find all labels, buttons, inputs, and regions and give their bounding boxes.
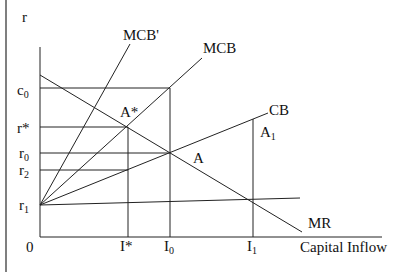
istar-label: I*: [120, 238, 133, 254]
mcb-curve: [40, 58, 202, 205]
c0-label: c0: [17, 82, 29, 100]
mcb-prime-curve: [40, 44, 130, 205]
r1-label: r1: [19, 197, 29, 215]
r2-label: r2: [19, 162, 29, 180]
r0-label: r0: [19, 145, 29, 163]
a-label: A: [193, 150, 204, 166]
i0-label: I0: [164, 238, 174, 256]
i1-label: I1: [247, 238, 257, 256]
mr-label: MR: [308, 215, 331, 231]
a1-label: A1: [260, 124, 276, 142]
capital-inflow-diagram: r Capital Inflow 0 c0 r* r0 r2 r1 I* I0 …: [0, 0, 403, 272]
a-star-label: A*: [120, 104, 138, 120]
mcb-label: MCB: [203, 40, 236, 56]
y-axis-label: r: [22, 9, 27, 25]
cb-label: CB: [269, 102, 289, 118]
rstar-label: r*: [17, 120, 30, 136]
origin-label: 0: [26, 239, 34, 255]
mcb-prime-label: MCB': [123, 27, 159, 43]
x-axis-label: Capital Inflow: [300, 239, 387, 255]
